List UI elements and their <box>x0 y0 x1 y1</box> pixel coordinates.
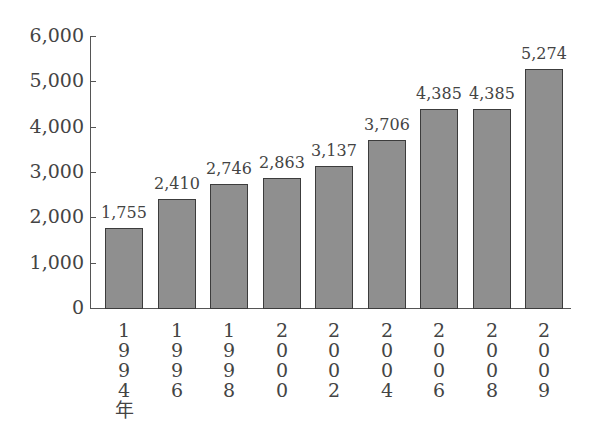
value-label: 3,137 <box>299 142 369 160</box>
y-tick-label: 5,000 <box>4 70 84 90</box>
y-tick-label: 3,000 <box>4 161 84 181</box>
x-tick-label: 1 9 9 4 年 <box>109 320 139 420</box>
bar <box>420 109 458 309</box>
x-tick-label: 2 0 0 2 <box>319 320 349 400</box>
y-tick <box>90 308 96 309</box>
bar <box>473 109 511 309</box>
value-label: 5,274 <box>509 45 579 63</box>
bar <box>210 184 248 309</box>
bar <box>263 178 301 309</box>
y-tick <box>90 127 96 128</box>
bar-chart: 01,0002,0003,0004,0005,0006,0001,7551 9 … <box>0 0 593 444</box>
y-tick <box>90 172 96 173</box>
y-tick <box>90 36 96 37</box>
bar <box>158 199 196 309</box>
x-tick-label: 1 9 9 8 <box>214 320 244 400</box>
y-tick-label: 4,000 <box>4 116 84 136</box>
x-tick-label: 2 0 0 8 <box>477 320 507 400</box>
value-label: 3,706 <box>352 116 422 134</box>
y-tick <box>90 263 96 264</box>
x-tick-label: 2 0 0 9 <box>529 320 559 400</box>
value-label: 4,385 <box>457 85 527 103</box>
bar <box>368 140 406 309</box>
y-tick-label: 0 <box>4 297 84 317</box>
x-tick-label: 1 9 9 6 <box>162 320 192 400</box>
value-label: 1,755 <box>89 204 159 222</box>
y-tick <box>90 81 96 82</box>
bar <box>105 228 143 309</box>
y-tick-label: 6,000 <box>4 25 84 45</box>
x-tick-label: 2 0 0 0 <box>267 320 297 400</box>
y-tick-label: 1,000 <box>4 252 84 272</box>
bar <box>525 69 563 309</box>
bar <box>315 166 353 309</box>
y-tick-label: 2,000 <box>4 206 84 226</box>
x-tick-label: 2 0 0 6 <box>424 320 454 400</box>
x-tick-label: 2 0 0 4 <box>372 320 402 400</box>
